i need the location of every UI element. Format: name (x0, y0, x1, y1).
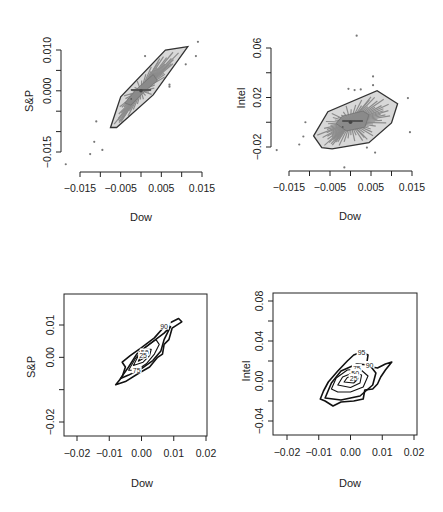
data-point (342, 126, 344, 128)
contour-dow-sp-x-axis-title: Dow (131, 477, 153, 489)
outlier-point (347, 88, 349, 90)
x-tick-label: 0.01 (372, 446, 393, 458)
outlier-point (407, 97, 409, 99)
outlier-point (168, 86, 170, 88)
y-tick-label: −0.04 (253, 408, 265, 435)
x-tick-label: −0.015 (64, 182, 97, 194)
contour-label: 90 (160, 323, 168, 330)
y-tick-label: 0.010 (41, 37, 53, 63)
x-tick-label: 0.01 (164, 447, 185, 459)
outlier-point (276, 149, 278, 151)
y-tick-label: 0.01 (44, 315, 56, 336)
bagplot-dow-intel-x-axis-title: Dow (339, 210, 361, 222)
y-tick-label: 0.06 (251, 38, 263, 59)
outlier-point (302, 135, 304, 137)
outlier-point (65, 163, 67, 165)
x-tick-label: −0.005 (314, 181, 347, 193)
data-point (144, 89, 146, 91)
bagplot-dow-sp-x-axis-title: Dow (130, 211, 152, 223)
data-point (130, 98, 132, 100)
data-point (133, 89, 135, 91)
outlier-point (372, 84, 374, 86)
outlier-point (304, 121, 306, 123)
bagplot-dow-intel-y-axis-title: Intel (235, 88, 247, 109)
x-tick-label: 0.00 (340, 446, 361, 458)
x-tick-label: 0.02 (404, 446, 425, 458)
contour-label: 75 (133, 367, 141, 374)
y-tick-label: 0.000 (41, 78, 53, 104)
outlier-point (354, 89, 356, 91)
x-tick-label: 0.015 (189, 182, 215, 194)
y-tick-label: −0.02 (44, 409, 56, 436)
outlier-point (374, 151, 376, 153)
contour-label: 25 (139, 352, 147, 359)
x-tick-label: −0.02 (274, 446, 301, 458)
x-tick-label: −0.005 (104, 182, 137, 194)
outlier-point (195, 55, 197, 57)
outlier-point (356, 35, 358, 37)
outlier-point (360, 88, 362, 90)
data-point (345, 120, 347, 122)
data-point (355, 120, 357, 122)
data-point (352, 120, 354, 122)
contour-dow-intel-y-axis-title: Intel (240, 361, 252, 382)
data-point (343, 120, 345, 122)
data-point (360, 120, 362, 122)
outlier-point (197, 41, 199, 43)
outlier-point (185, 63, 187, 65)
y-tick-label: 0.08 (253, 291, 265, 312)
x-tick-label: 0.00 (131, 447, 152, 459)
bagplot-dow-sp-y-axis-title: S&P (23, 90, 35, 112)
data-point (132, 89, 134, 91)
figure: −0.015−0.0050.0050.015−0.0150.0000.010 D… (0, 0, 443, 512)
outlier-point (93, 141, 95, 143)
outlier-point (343, 166, 345, 168)
y-tick-label: 0.00 (44, 347, 56, 368)
outlier-point (409, 131, 411, 133)
outlier-point (298, 143, 300, 145)
x-tick-label: −0.02 (64, 447, 91, 459)
x-tick-label: 0.02 (196, 447, 217, 459)
data-point (145, 89, 147, 91)
outlier-point (101, 149, 103, 151)
x-tick-label: −0.01 (96, 447, 123, 459)
outlier-point (366, 147, 368, 149)
data-point (357, 120, 359, 122)
contour-label: 90 (366, 362, 374, 369)
y-tick-label: 0.04 (253, 331, 265, 352)
depth-median-point (349, 120, 353, 124)
y-tick-label: 0.02 (251, 87, 263, 108)
depth-median-point (139, 89, 143, 93)
x-tick-label: −0.015 (273, 181, 306, 193)
contour-label: 25 (350, 375, 358, 382)
y-tick-label: −0.02 (251, 134, 263, 161)
outlier-point (168, 84, 170, 86)
contour-dow-intel-x-axis-title: Dow (339, 477, 361, 489)
contour-label: 95 (358, 349, 366, 356)
data-point (136, 89, 138, 91)
outlier-point (89, 153, 91, 155)
y-tick-label: −0.015 (41, 136, 53, 169)
x-tick-label: 0.015 (399, 181, 425, 193)
contour-dow-sp-y-axis-title: S&P (25, 356, 37, 378)
x-tick-label: 0.005 (358, 181, 384, 193)
outlier-point (372, 75, 374, 77)
outlier-point (144, 55, 146, 57)
outlier-point (95, 120, 97, 122)
data-point (148, 89, 150, 91)
x-tick-label: 0.005 (148, 182, 174, 194)
x-tick-label: −0.01 (305, 446, 332, 458)
y-tick-label: 0.00 (253, 371, 265, 392)
